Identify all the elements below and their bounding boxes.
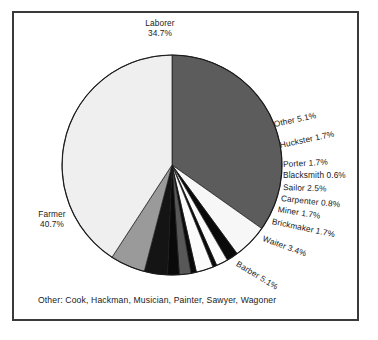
pie-chart-figure: Laborer 34.7% Farmer 40.7% Other 5.1% Hu… — [0, 0, 378, 340]
slice-label-laborer-name: Laborer — [108, 18, 212, 28]
slice-label-farmer: Farmer 40.7% — [14, 209, 90, 230]
slice-label-farmer-pct: 40.7% — [14, 219, 90, 229]
slice-label-farmer-name: Farmer — [14, 209, 90, 219]
slice-label-sailor: Sailor 2.5% — [283, 182, 327, 194]
slice-label-laborer: Laborer 34.7% — [108, 18, 212, 39]
other-footnote: Other: Cook, Hackman, Musician, Painter,… — [38, 295, 276, 305]
slice-label-blacksmith: Blacksmith 0.6% — [283, 170, 346, 180]
slice-label-laborer-pct: 34.7% — [108, 28, 212, 38]
